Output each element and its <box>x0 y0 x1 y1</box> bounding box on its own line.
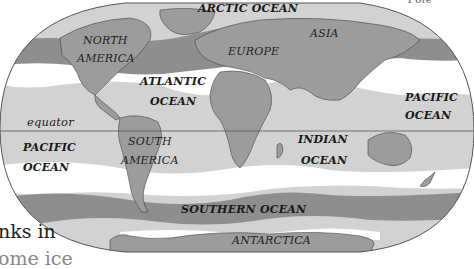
label-southern-ocean: SOUTHERN OCEAN <box>181 204 306 215</box>
fragment-text-line2: ome ice <box>0 249 73 268</box>
label-arctic-ocean: ARCTIC OCEAN <box>198 3 298 14</box>
label-atlantic-2: OCEAN <box>150 96 196 107</box>
label-indian-1: INDIAN <box>298 134 348 145</box>
label-asia: ASIA <box>310 28 339 39</box>
label-pacific-east-1: PACIFIC <box>405 92 458 103</box>
label-pacific-east-2: OCEAN <box>405 110 451 121</box>
label-south-america-1: SOUTH <box>128 136 172 147</box>
label-north-america-2: AMERICA <box>77 53 135 64</box>
label-indian-2: OCEAN <box>301 155 347 166</box>
fragment-top-right: Pole <box>408 0 432 5</box>
label-pacific-west-1: PACIFIC <box>23 142 76 153</box>
label-antarctica: ANTARCTICA <box>232 235 311 246</box>
label-equator: equator <box>27 117 74 129</box>
label-south-america-2: AMERICA <box>121 155 179 166</box>
label-atlantic-1: ATLANTIC <box>140 76 206 87</box>
label-north-america-1: NORTH <box>83 35 128 46</box>
fragment-text-line1: nks in <box>0 222 56 241</box>
label-pacific-west-2: OCEAN <box>23 162 69 173</box>
label-europe: EUROPE <box>228 46 279 57</box>
